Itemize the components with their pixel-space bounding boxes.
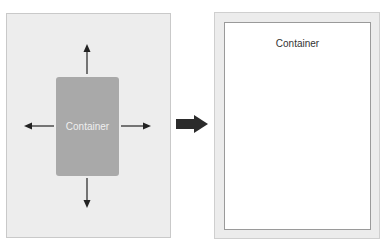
transition-arrow-icon (176, 115, 208, 133)
container-box: Container (56, 77, 119, 176)
arrow-right-icon (121, 121, 151, 131)
arrow-up-icon (82, 44, 92, 74)
container-label: Container (66, 121, 109, 132)
expanded-container-label: Container (225, 38, 370, 49)
expanded-container: Container (224, 22, 371, 230)
arrow-down-icon (82, 178, 92, 208)
arrow-left-icon (24, 121, 54, 131)
